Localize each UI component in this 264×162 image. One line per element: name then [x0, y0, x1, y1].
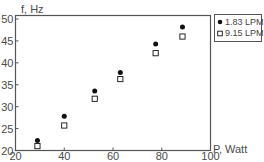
y-tick-label: 45 — [1, 35, 13, 47]
x-tick-label: 20 — [9, 150, 21, 161]
y-tick-label: 35 — [1, 79, 13, 91]
x-tick-label: 40 — [58, 150, 70, 161]
y-axis-label: f, Hz — [21, 3, 44, 15]
y-tick-label: 50 — [1, 13, 13, 25]
point-filled-circle — [62, 114, 67, 119]
legend: 1.83 LPM 9.15 LPM — [215, 15, 264, 42]
point-filled-circle — [35, 138, 40, 143]
x-axis-label: P, Watt — [213, 143, 247, 155]
legend-marker-filled-circle-icon — [218, 20, 223, 25]
x-tick-label: 80 — [156, 150, 168, 161]
y-tick-label: 30 — [1, 101, 13, 113]
data-points — [35, 24, 185, 148]
x-tick-label: 60 — [107, 150, 119, 161]
point-open-square — [118, 76, 123, 81]
point-filled-circle — [118, 70, 123, 75]
point-filled-circle — [180, 24, 185, 29]
legend-label-1: 1.83 LPM — [225, 17, 264, 27]
scatter-chart: 20253035404550 20406080100 f, Hz P, Watt… — [0, 0, 264, 161]
x-axis-ticks: 20406080100 — [9, 148, 219, 162]
point-open-square — [62, 123, 67, 128]
point-open-square — [153, 51, 158, 56]
point-open-square — [180, 34, 185, 39]
point-filled-circle — [92, 88, 97, 93]
legend-marker-open-square-icon — [218, 31, 223, 36]
point-filled-circle — [153, 41, 158, 46]
legend-label-2: 9.15 LPM — [225, 28, 264, 38]
y-tick-label: 40 — [1, 57, 13, 69]
point-open-square — [92, 96, 97, 101]
y-tick-label: 25 — [1, 123, 13, 135]
point-open-square — [35, 144, 40, 149]
